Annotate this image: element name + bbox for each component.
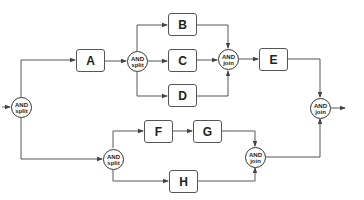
edge-h-join-bottom <box>198 168 255 181</box>
task-e-label: E <box>269 53 277 67</box>
task-e: E <box>259 48 288 71</box>
edge-split-bottom-f <box>113 131 143 148</box>
task-h-label: H <box>179 175 188 189</box>
task-a-label: A <box>86 54 95 68</box>
gate-kind: split <box>131 62 143 68</box>
edge-split-bottom-h <box>113 170 168 181</box>
task-g-label: G <box>203 125 212 139</box>
gate-and-split-main: AND split <box>11 97 32 118</box>
task-h: H <box>169 170 198 193</box>
gate-kind: join <box>250 158 261 164</box>
task-a: A <box>76 49 105 72</box>
edge-split-top-b <box>137 25 167 51</box>
edge-split-main-split-bottom <box>21 118 102 159</box>
edge-e-join-main <box>288 59 320 97</box>
task-b-label: B <box>178 18 187 32</box>
edge-b-join-top <box>197 25 228 48</box>
edge-split-top-d <box>137 72 167 96</box>
edge-split-main-a <box>21 60 75 97</box>
task-b: B <box>168 13 197 36</box>
gate-and-join-bottom: AND join <box>245 147 266 168</box>
gate-and-join-main: AND join <box>310 98 331 119</box>
gate-and-split-top: AND split <box>127 51 148 72</box>
gate-kind: join <box>223 60 234 66</box>
task-f-label: F <box>155 125 162 139</box>
edge-d-join-top <box>197 71 228 96</box>
gate-kind: split <box>15 108 27 114</box>
task-g: G <box>193 120 222 143</box>
task-c: C <box>168 49 197 72</box>
task-d: D <box>168 84 197 107</box>
edge-join-bottom-join-main <box>266 119 320 157</box>
edge-g-join-bottom <box>222 131 255 146</box>
task-d-label: D <box>178 89 187 103</box>
task-c-label: C <box>178 54 187 68</box>
gate-kind: join <box>315 109 326 115</box>
gate-and-split-bottom: AND split <box>103 149 124 170</box>
gate-kind: split <box>107 160 119 166</box>
task-f: F <box>144 120 173 143</box>
gate-and-join-top: AND join <box>218 49 239 70</box>
